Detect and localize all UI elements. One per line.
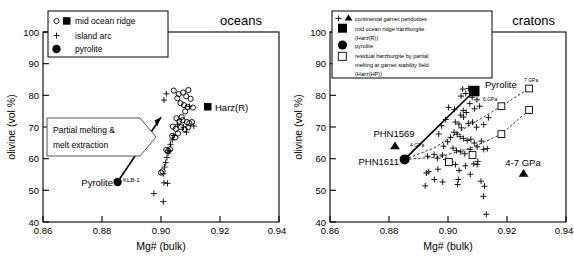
phn1569-label: 4-7 GPa (505, 157, 541, 168)
y-tick-label: 60 (315, 153, 326, 164)
panel-oceans: 100 90 80 70 60 50 40 0.86 0.88 0.90 0. (0, 0, 287, 265)
legend-label-mid-ocean-ridge: mid ocean ridge (75, 16, 136, 26)
phn1611-label: PHN1569 (373, 128, 414, 139)
callout-line-2: melt extraction (53, 140, 109, 150)
legend-filled-square-icon (338, 24, 347, 33)
pressure-label-6gpa: 7 GPa (524, 77, 538, 83)
y-axis-title: olivine (vol %) (5, 94, 17, 159)
legend-label-residual-harzburgite-2: melting at garnet stability field (355, 62, 429, 68)
cratons-plot: 100 90 80 70 60 50 40 0.86 0.88 0.90 0.9… (287, 0, 574, 265)
legend-label-continental-garnet-peridotites: continental garnet peridotites (355, 16, 427, 22)
x-axis-ticks (43, 216, 279, 222)
y-axis-tick-labels: 100 90 80 70 60 50 40 (23, 27, 39, 228)
y-tick-label: 70 (315, 122, 326, 133)
x-tick-label: 0.86 (34, 225, 53, 236)
y-axis-title: olivine (vol %) (292, 94, 304, 159)
legend-filled-circle-icon (338, 40, 347, 49)
harz-r-label: Harz(R) (215, 102, 248, 113)
x-tick-label: 0.90 (439, 225, 458, 236)
legend-filled-circle-icon (52, 45, 60, 53)
callout-line-1: Partial melting & (53, 125, 115, 135)
x-tick-label: 0.94 (555, 225, 574, 236)
legend-cratons: continental garnet peridotites mid ocean… (332, 11, 492, 78)
x-axis-tick-labels: 0.86 0.88 0.90 0.92 0.94 (34, 225, 287, 236)
x-tick-label: 0.86 (321, 225, 340, 236)
y-tick-label: 60 (28, 153, 39, 164)
harz-r-marker (204, 103, 212, 111)
legend-label-residual-harzburgite-1: residual harzburgite by partial (355, 53, 428, 59)
pyrolite-marker (400, 154, 410, 164)
panel-title: cratons (512, 13, 555, 28)
x-tick-label: 0.90 (152, 225, 171, 236)
figure-root: 100 90 80 70 60 50 40 0.86 0.88 0.90 0. (0, 0, 574, 265)
pressure-label-4gpa: 6 GPa (483, 96, 497, 102)
x-axis-title: Mg# (bulk) (423, 240, 473, 252)
legend-filled-square-icon (63, 17, 71, 25)
klb1-label: KLB-1 (123, 177, 140, 183)
x-tick-label: 0.92 (211, 225, 230, 236)
x-tick-label: 0.88 (380, 225, 399, 236)
y-tick-label: 70 (28, 122, 39, 133)
y-tick-label: 100 (310, 27, 326, 38)
harz-r-label: Pyrolite (485, 79, 517, 90)
y-tick-label: 90 (28, 58, 39, 69)
phn1611-marker (390, 142, 400, 150)
legend-open-square-icon (338, 52, 346, 60)
oceans-plot: 100 90 80 70 60 50 40 0.86 0.88 0.90 0. (0, 0, 287, 265)
x-tick-label: 0.92 (498, 225, 517, 236)
y-tick-label: 90 (315, 58, 326, 69)
harz-r-marker (469, 86, 480, 97)
legend-label-harz-hp: (Harz(HP)) (355, 71, 382, 77)
y-tick-label: 100 (23, 27, 39, 38)
partial-melting-callout: Partial melting & melt extraction (47, 118, 156, 156)
legend-label-morb-harzburgite: mid ocean ridge harzburgite (355, 26, 424, 32)
y-axis-tick-labels: 100 90 80 70 60 50 40 (310, 27, 326, 228)
x-axis-tick-labels: 0.86 0.88 0.90 0.92 0.94 (321, 225, 574, 236)
legend-oceans: mid ocean ridge island arc pyrolite (48, 11, 168, 57)
legend-label-harz-r: (Harz(R)) (355, 35, 378, 41)
scatter-points-continental-garnet-peridotites (422, 86, 491, 218)
y-tick-label: 80 (315, 90, 326, 101)
phn1569-marker (519, 169, 529, 177)
y-tick-label: 50 (315, 185, 326, 196)
x-axis-title: Mg# (bulk) (136, 240, 186, 252)
panel-cratons: 100 90 80 70 60 50 40 0.86 0.88 0.90 0.9… (287, 0, 574, 265)
pressure-label-4-7gpa: 4 GPa (410, 142, 424, 148)
x-tick-label: 0.94 (268, 225, 287, 236)
x-axis-ticks (330, 216, 566, 222)
legend-label-island-arc: island arc (75, 31, 112, 41)
legend-label-pyrolite: pyrolite (355, 43, 373, 49)
y-tick-label: 80 (28, 90, 39, 101)
harz-r-trend-line (405, 91, 475, 159)
pyrolite-marker (113, 178, 121, 186)
x-tick-label: 0.88 (93, 225, 112, 236)
legend-label-pyrolite: pyrolite (75, 44, 103, 54)
y-tick-label: 50 (28, 185, 39, 196)
panel-title: oceans (220, 13, 262, 28)
pyrolite-label: PHN1611 (359, 156, 400, 167)
pyrolite-label: Pyrolite (81, 177, 113, 188)
